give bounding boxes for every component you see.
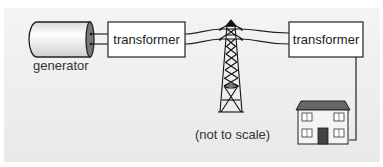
house-icon xyxy=(296,101,350,144)
pylon-icon xyxy=(218,20,244,112)
not-to-scale-note: (not to scale) xyxy=(195,127,270,142)
generator-label: generator xyxy=(33,58,89,73)
generator-icon xyxy=(29,22,94,57)
step-up-transformer-label: transformer xyxy=(108,22,185,57)
door-icon xyxy=(318,128,328,144)
house-feed-wire xyxy=(349,57,356,140)
overhead-cables xyxy=(185,29,289,44)
step-down-transformer-label: transformer xyxy=(289,22,363,57)
